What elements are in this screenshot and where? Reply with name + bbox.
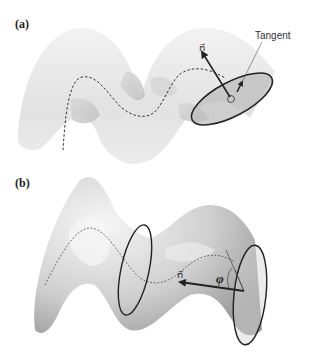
panel-b-diagram: n⃗ φ	[34, 177, 271, 346]
wavy-tube-surface	[34, 177, 262, 335]
normal-vector-label: n⃗	[199, 42, 205, 53]
tangent-label: Tangent	[255, 30, 291, 41]
normal-vector-label: n⃗	[177, 269, 183, 280]
angle-phi-label: φ	[216, 271, 224, 286]
panel-a-diagram: n⃗ Tangent	[18, 28, 291, 164]
figure-canvas: n⃗ Tangent n⃗ φ	[0, 0, 312, 354]
